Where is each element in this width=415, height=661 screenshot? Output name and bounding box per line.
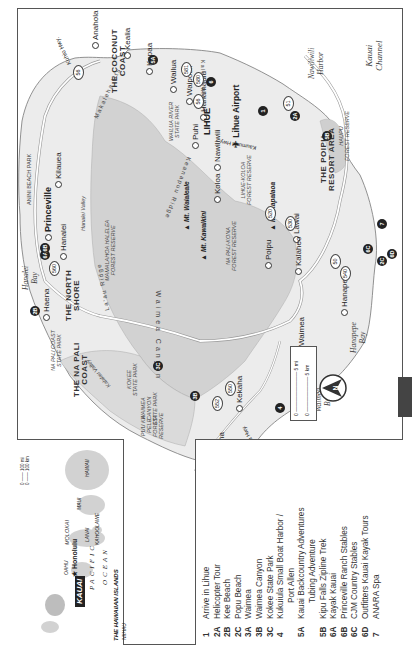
scale-km-row: 0 ——————— 5 km xyxy=(305,365,310,416)
hanalei-bay: Hanalei Bay xyxy=(22,266,39,290)
legend-text: Kauai Backcountry Adventures xyxy=(297,440,308,619)
legend-num: 6B xyxy=(340,619,351,637)
legend-item-continuation: Port Allen xyxy=(287,440,298,637)
legend-text: Outfitters Kauai Kayak Tours xyxy=(361,440,372,619)
kauai-inset-highlight: KAUAI xyxy=(75,576,85,607)
inset-scale-zero-km: 0 xyxy=(25,482,30,485)
inset-molokai: MOLOKAI xyxy=(65,520,71,545)
legend-item: 3BWaimea Canyon xyxy=(255,440,266,637)
legend-text: ANARA Spa xyxy=(372,440,383,619)
town-nawiliwili: Nawiliwili xyxy=(214,130,222,171)
route-520-shield: 520 xyxy=(265,206,276,221)
legend-num: 2B xyxy=(223,619,234,637)
marker-6c[interactable]: 6C xyxy=(363,244,373,254)
svg-text:N: N xyxy=(332,385,339,390)
legend-text: CJM Country Stables xyxy=(350,440,361,619)
route-552-shield: 552 xyxy=(212,396,223,411)
mamalahoa-halelea-reserve: MAMALAHOA HALELEA FOREST RESERVE xyxy=(104,220,116,281)
town-poipu: Poipu xyxy=(265,240,273,269)
marker-7[interactable]: 7 xyxy=(377,219,387,229)
marker-1[interactable]: 1 xyxy=(258,106,268,116)
legend-item: 3AWaimea xyxy=(244,440,255,637)
town-puhi: Puhi xyxy=(192,124,200,149)
town-koloa: Koloa xyxy=(214,174,222,203)
marker-2b[interactable]: 2B xyxy=(30,306,40,316)
na-pali-coast-state-park: NA PALI COAST STATE PARK xyxy=(50,330,62,371)
legend-item: 2AHelicopter Tour xyxy=(213,440,224,637)
legend-text: Helicopter Tour xyxy=(213,440,224,619)
airport-label: Lihue Airport xyxy=(231,85,241,138)
legend-text: Waimea Canyon xyxy=(255,440,266,619)
legend-num: 2C xyxy=(234,619,245,637)
marker-3c[interactable]: 3C xyxy=(153,361,163,371)
inset-pacific: PACIFIC xyxy=(89,543,96,590)
town-hanalei: Hanalei xyxy=(60,224,68,260)
anini-beach-park: ANINI BEACH PARK xyxy=(26,154,32,205)
marker-2a[interactable]: 2A xyxy=(290,111,300,121)
legend-text: Kee Beach xyxy=(223,440,234,619)
marker-6d[interactable]: 6D xyxy=(387,249,397,259)
legend-item: 2CPopu Beach xyxy=(234,440,245,637)
hawaiian-islands-inset: KAUAI NIIHAU OAHU ★ Honolulu MOLOKAI LAN… xyxy=(17,439,124,645)
marker-2c[interactable]: 2C xyxy=(377,256,387,266)
map-scale: 0 ———————— 5 mi 0 ——————— 5 km xyxy=(290,346,317,421)
hanalei-valley: Hanalei Valley xyxy=(80,196,86,231)
legend-num: 2A xyxy=(213,619,224,637)
marker-6[interactable]: 6 xyxy=(206,77,216,87)
route-56-north-shield: 56 xyxy=(73,65,84,80)
legend-item: 4Kukuiula Small Boat Harbor / xyxy=(276,440,287,637)
town-lihue-airport: ✈ Lihue Airport xyxy=(232,85,241,148)
inset-scale: 0 —— 100 mi 0 —— 100 km xyxy=(21,456,30,485)
route-550-shield: 550 xyxy=(225,381,236,396)
legend-text: Popu Beach xyxy=(234,440,245,619)
legend-num: 4 xyxy=(276,619,287,637)
route-581-shield: 581 xyxy=(181,62,192,77)
route-540-shield: 540 xyxy=(340,266,351,281)
na-pali-kona-reserve: NA PALI-KONA FOREST RESERVE xyxy=(225,221,237,271)
marker-5a[interactable]: 5A xyxy=(148,55,158,65)
town-princeville: Princeville xyxy=(44,187,53,241)
region-north-shore: THE NORTH SHORE xyxy=(65,270,82,321)
legend-item: 5AKauai Backcountry Adventures xyxy=(297,440,308,637)
inset-ocean: OCEAN xyxy=(102,547,109,585)
inset-niihau: NIIHAU xyxy=(122,623,127,640)
legend-item: 5BKipu Falls Zipline Trek xyxy=(319,440,330,637)
north-arrow-icon: N xyxy=(318,373,348,403)
region-na-pali-coast: THE NA PALI COAST xyxy=(73,342,90,397)
wailua-river-state-park: WAILUA RIVER STATE PARK xyxy=(168,102,180,141)
city-lihue: LIHUE xyxy=(203,108,212,135)
legend-num: 5A xyxy=(297,619,308,637)
route-50-shield: 50 xyxy=(330,254,341,269)
marker-6b[interactable]: 6B xyxy=(40,243,50,253)
legend-num: 3C xyxy=(266,619,277,637)
kokee-state-park: KOKEE STATE PARK xyxy=(126,363,138,396)
scale-mi: 5 mi xyxy=(293,361,299,370)
marker-5b[interactable]: 5B xyxy=(322,131,332,141)
inset-title: THE HAWAIIAN ISLANDS xyxy=(113,569,119,641)
haupu-reserve-label: HAUPU FOREST RESERVE xyxy=(338,111,350,161)
town-kekaha: Kekaha xyxy=(236,376,244,412)
legend-item: 3CKokee State Park xyxy=(266,440,277,637)
town-wailua: Wailua xyxy=(170,60,178,93)
town-kalaheo: Kalaheo xyxy=(295,237,303,275)
marker-4[interactable]: 4 xyxy=(275,403,285,413)
legend-num: 3B xyxy=(255,619,266,637)
marker-3b[interactable]: 3B xyxy=(190,391,200,401)
legend-num: 3A xyxy=(244,619,255,637)
inset-honolulu: ★ Honolulu xyxy=(71,539,78,577)
itinerary-legend: 1Arrive in Lihue 2AHelicopter Tour 2BKee… xyxy=(195,439,403,645)
route-56-south-shield: 56 xyxy=(193,94,204,109)
legend-num: 1 xyxy=(202,619,213,637)
map-page: Anahola Kealia Kapaa Wailua Waipouli Han… xyxy=(0,0,415,661)
legend-text: Kipu Falls Zipline Trek xyxy=(319,440,330,619)
town-haena: Haena xyxy=(43,288,51,321)
scale-km: 5 km xyxy=(304,365,310,376)
legend-text: Kayak Kauai xyxy=(329,440,340,619)
route-560-shield: 560 xyxy=(49,261,60,276)
legend-item: 6CCJM Country Stables xyxy=(350,440,361,637)
inset-lanai: LANAI xyxy=(85,528,90,542)
legend-text: Port Allen xyxy=(287,440,298,619)
legend-item: 6DOutfitters Kauai Kayak Tours xyxy=(361,440,372,637)
legend-text: Kukuiula Small Boat Harbor / xyxy=(276,440,287,619)
legend-num: 6D xyxy=(361,619,372,637)
